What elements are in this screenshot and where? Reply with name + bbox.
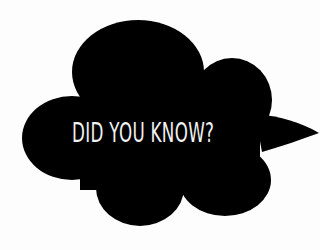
did-you-know-heading: DID YOU KNOW?: [72, 114, 169, 152]
